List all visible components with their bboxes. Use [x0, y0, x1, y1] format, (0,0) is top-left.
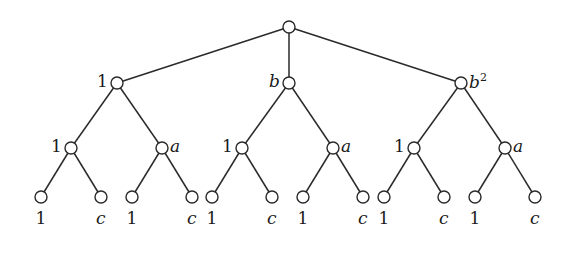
- tree-node-L3-7: [357, 191, 369, 203]
- node-label: c: [439, 210, 449, 227]
- node-label-text: 1: [207, 208, 218, 228]
- node-label: 1: [51, 138, 62, 155]
- node-label-text: 1: [470, 208, 481, 228]
- tree-node-L1-2: [455, 77, 467, 89]
- tree-node-L2-3: [327, 142, 339, 154]
- tree-node-root: [283, 21, 295, 33]
- node-label: c: [187, 210, 197, 227]
- tree-node-L3-8: [378, 191, 390, 203]
- tree-node-L1-0: [111, 77, 123, 89]
- tree-edge: [132, 148, 162, 197]
- node-label: c: [358, 210, 368, 227]
- node-label: 1: [298, 210, 309, 227]
- node-label: 1: [207, 210, 218, 227]
- tree-edge: [475, 148, 505, 197]
- tree-node-L3-2: [126, 191, 138, 203]
- node-label-text: c: [96, 208, 106, 228]
- node-label-superscript: 2: [480, 71, 487, 84]
- node-label: b2: [469, 72, 487, 91]
- node-label-text: c: [267, 208, 277, 228]
- node-label-text: b: [269, 71, 280, 91]
- tree-node-L2-4: [408, 142, 420, 154]
- tree-edge: [242, 83, 289, 148]
- tree-node-L3-6: [297, 191, 309, 203]
- node-label-text: a: [170, 136, 180, 156]
- node-label-text: 1: [379, 208, 390, 228]
- node-label-text: 1: [298, 208, 309, 228]
- tree-node-L3-11: [529, 191, 541, 203]
- node-label-text: 1: [127, 208, 138, 228]
- tree-edge: [303, 148, 333, 197]
- tree-graphic: [0, 0, 573, 254]
- node-label-text: c: [530, 208, 540, 228]
- tree-node-L3-4: [206, 191, 218, 203]
- node-label-text: c: [358, 208, 368, 228]
- tree-edge: [414, 148, 444, 197]
- tree-node-L3-0: [35, 191, 47, 203]
- node-label-text: 1: [36, 208, 47, 228]
- tree-edge: [289, 27, 461, 83]
- tree-node-L2-5: [499, 142, 511, 154]
- tree-edge: [71, 148, 101, 197]
- node-label: 1: [379, 210, 390, 227]
- node-label: a: [513, 138, 523, 155]
- node-label: b: [269, 73, 280, 90]
- tree-edge: [289, 83, 333, 148]
- tree-edge: [414, 83, 461, 148]
- tree-edge: [461, 83, 505, 148]
- tree-nodes: [35, 21, 541, 203]
- tree-node-L3-10: [469, 191, 481, 203]
- node-label: a: [341, 138, 351, 155]
- tree-node-L3-1: [95, 191, 107, 203]
- node-label: c: [530, 210, 540, 227]
- node-label: 1: [97, 73, 108, 90]
- node-label-text: 1: [394, 136, 405, 156]
- tree-node-L3-9: [438, 191, 450, 203]
- tree-node-L3-3: [186, 191, 198, 203]
- node-label: c: [96, 210, 106, 227]
- node-label-text: 1: [51, 136, 62, 156]
- node-label-text: b: [469, 72, 480, 92]
- tree-edges: [41, 27, 535, 197]
- tree-node-L2-1: [156, 142, 168, 154]
- tree-edge: [117, 83, 162, 148]
- tree-diagram: 1bb21a1a1a1c1c1c1c1c1c: [0, 0, 573, 254]
- tree-node-L3-5: [266, 191, 278, 203]
- node-label-text: a: [513, 136, 523, 156]
- tree-edge: [242, 148, 272, 197]
- node-label: 1: [36, 210, 47, 227]
- node-label: 1: [127, 210, 138, 227]
- node-label: a: [170, 138, 180, 155]
- node-label: c: [267, 210, 277, 227]
- node-label: 1: [222, 138, 233, 155]
- tree-edge: [117, 27, 289, 83]
- node-label-text: c: [439, 208, 449, 228]
- tree-edge: [71, 83, 117, 148]
- node-label-text: 1: [97, 71, 108, 91]
- node-label-text: c: [187, 208, 197, 228]
- tree-node-L2-0: [65, 142, 77, 154]
- tree-node-L1-1: [283, 77, 295, 89]
- node-label-text: 1: [222, 136, 233, 156]
- node-label: 1: [470, 210, 481, 227]
- tree-node-L2-2: [236, 142, 248, 154]
- node-label: 1: [394, 138, 405, 155]
- node-label-text: a: [341, 136, 351, 156]
